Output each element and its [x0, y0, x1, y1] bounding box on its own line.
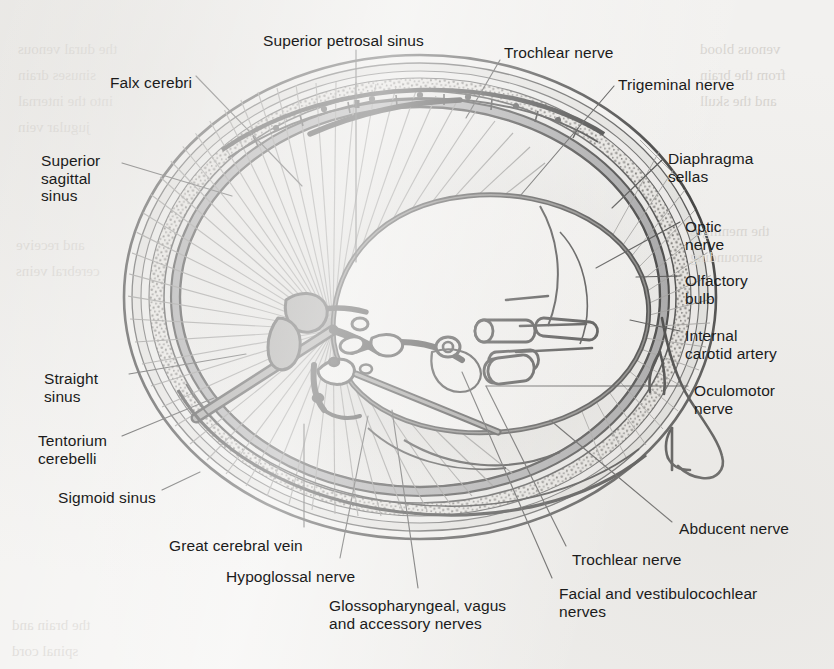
label-tentorium_cerebelli: Tentorium cerebelli	[38, 432, 107, 467]
label-trochlear_nerve_top: Trochlear nerve	[504, 44, 613, 62]
label-optic_nerve: Optic nerve	[685, 218, 724, 253]
label-trochlear_nerve_bottom: Trochlear nerve	[572, 551, 681, 569]
label-sigmoid_sinus: Sigmoid sinus	[58, 489, 156, 507]
label-internal_carotid_artery: Internal carotid artery	[685, 327, 777, 362]
label-trigeminal_nerve: Trigeminal nerve	[618, 76, 734, 94]
label-diaphragma_sellas: Diaphragma sellas	[668, 150, 753, 185]
label-abducent_nerve: Abducent nerve	[679, 520, 789, 538]
label-great_cerebral_vein: Great cerebral vein	[169, 537, 303, 555]
label-hypoglossal_nerve: Hypoglossal nerve	[226, 568, 355, 586]
label-superior_petrosal_sinus: Superior petrosal sinus	[263, 32, 424, 50]
label-falx_cerebri: Falx cerebri	[110, 74, 192, 92]
label-oculomotor_nerve: Oculomotor nerve	[694, 382, 775, 417]
label-olfactory_bulb: Olfactory bulb	[685, 272, 748, 307]
label-superior_sagittal_sinus: Superior sagittal sinus	[41, 152, 100, 205]
label-straight_sinus: Straight sinus	[44, 370, 98, 405]
anatomical-figure: the dural venoussinuses draininto the in…	[0, 0, 834, 669]
tentorial-free-edge	[333, 195, 649, 433]
label-glossopharyngeal_vagus_accessory: Glossopharyngeal, vagus and accessory ne…	[329, 597, 506, 632]
label-facial_vestibulocochlear: Facial and vestibulocochlear nerves	[559, 585, 757, 620]
